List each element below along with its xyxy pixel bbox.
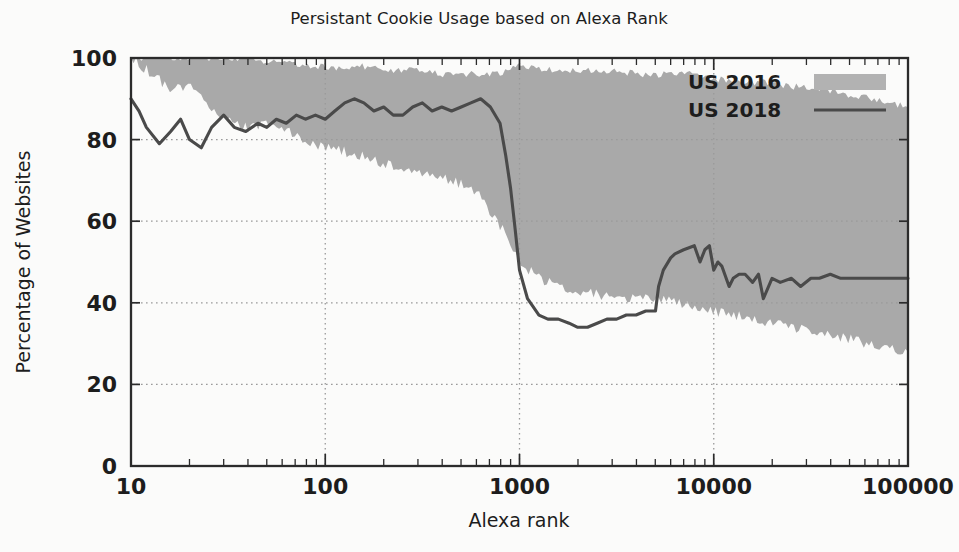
- y-tick-label: 60: [86, 209, 117, 234]
- x-tick-label: 100000: [862, 474, 954, 499]
- x-tick-label: 100: [302, 474, 348, 499]
- legend-label: US 2018: [688, 98, 781, 122]
- x-tick-label: 10: [116, 474, 147, 499]
- x-axis-title: Alexa rank: [468, 509, 569, 531]
- chart-svg: 02040608010010100100010000100000 US 2016…: [0, 0, 959, 552]
- x-tick-label: 1000: [489, 474, 550, 499]
- chart-figure: 02040608010010100100010000100000 US 2016…: [0, 0, 959, 552]
- y-tick-label: 40: [86, 291, 117, 316]
- y-tick-label: 80: [86, 128, 117, 153]
- y-tick-label: 100: [71, 46, 117, 71]
- y-tick-label: 20: [86, 372, 117, 397]
- legend-label: US 2016: [688, 70, 781, 94]
- x-tick-label: 10000: [675, 474, 752, 499]
- y-axis-title: Percentage of Websites: [12, 151, 34, 374]
- us-2016-band: [131, 57, 908, 355]
- legend-swatch-band: [814, 74, 886, 90]
- chart-title: Persistant Cookie Usage based on Alexa R…: [290, 9, 668, 28]
